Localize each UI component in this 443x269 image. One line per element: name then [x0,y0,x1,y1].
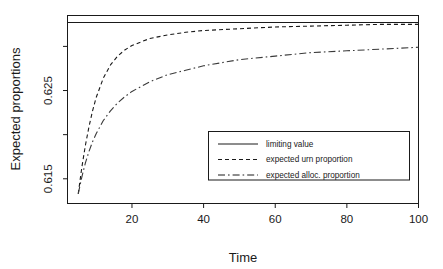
y-tick-label: 0.615 [42,164,54,193]
x-tick-label: 60 [269,213,282,225]
x-tick-label: 40 [197,213,210,225]
chart-figure: 0.6250.615 20406080100 Time Expected pro… [0,0,443,269]
legend: limiting valueexpected urn proportionexp… [209,132,410,181]
legend-label-2: expected urn proportion [266,155,353,164]
y-tick-label: 0.625 [42,76,54,105]
x-tick-label: 20 [126,213,139,225]
x-tick-label: 100 [409,213,428,225]
x-axis-title: Time [229,250,257,265]
chart-canvas: 0.6250.615 20406080100 Time Expected pro… [0,0,443,269]
legend-label-3: expected alloc. proportion [266,171,360,180]
legend-label-1: limiting value [266,140,314,149]
y-axis-title: Expected proportions [8,47,23,170]
x-tick-label: 80 [340,213,353,225]
